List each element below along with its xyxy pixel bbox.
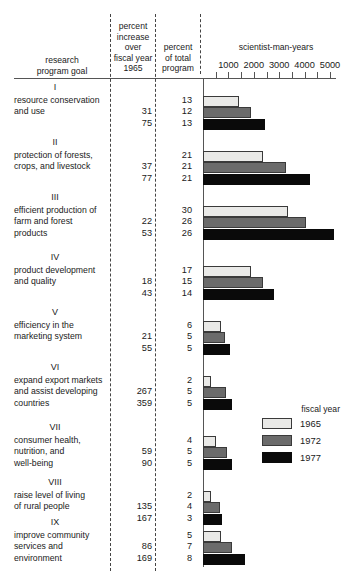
percent-of-total-value: 14 xyxy=(158,288,192,299)
percent-of-total-cell: 171514 xyxy=(158,265,192,299)
header-increase-line3: over xyxy=(112,42,154,53)
legend-items: 196519721977 xyxy=(262,418,348,463)
row-label-line: improve community xyxy=(14,530,110,541)
row-label-line: protection of forests, xyxy=(14,150,110,161)
percent-of-total-value: 5 xyxy=(158,530,192,541)
row-label: improve communityservices andenvironment xyxy=(14,530,110,564)
row-label-line: efficient production of xyxy=(14,205,110,216)
row-label: protection of forests,crops, and livesto… xyxy=(14,150,110,173)
percent-increase-cell: 267359 xyxy=(112,375,152,409)
bar-1977 xyxy=(203,344,230,355)
percent-increase-value: 86 xyxy=(112,541,152,552)
percent-increase-value: 167 xyxy=(112,513,152,524)
percent-increase-value xyxy=(112,320,152,331)
percent-increase-value: 77 xyxy=(112,173,152,184)
header-increase-line1: percent xyxy=(112,21,154,32)
row-label-line: consumer health, xyxy=(14,435,110,446)
percent-increase-value: 37 xyxy=(112,161,152,172)
bar-1972 xyxy=(203,447,227,458)
percent-of-total-value: 21 xyxy=(158,150,192,161)
percent-increase-value xyxy=(112,375,152,386)
row-numeral: V xyxy=(0,307,110,317)
row-numeral: IX xyxy=(0,517,110,527)
bar-1977 xyxy=(203,514,222,525)
percent-increase-cell: 5990 xyxy=(112,435,152,469)
header-goal-line2: program goal xyxy=(14,66,110,77)
percent-increase-value: 18 xyxy=(112,276,152,287)
row-numeral: II xyxy=(0,137,110,147)
legend-item: 1972 xyxy=(262,435,348,446)
bar-chart-figure: research program goal percent increase o… xyxy=(0,0,350,575)
percent-increase-value xyxy=(112,265,152,276)
header-total-line3: program xyxy=(157,63,199,74)
percent-increase-value: 21 xyxy=(112,331,152,342)
row-numeral: VIII xyxy=(0,477,110,487)
bar-1965 xyxy=(203,376,211,387)
percent-of-total-value: 21 xyxy=(158,173,192,184)
percent-increase-cell: 2253 xyxy=(112,205,152,239)
header-increase-line4: fiscal year xyxy=(112,53,154,64)
bar-1972 xyxy=(203,502,220,513)
percent-of-total-value: 26 xyxy=(158,216,192,227)
row-label-line: environment xyxy=(14,553,110,564)
row-numeral: III xyxy=(0,192,110,202)
percent-of-total-value: 5 xyxy=(158,458,192,469)
percent-of-total-value: 26 xyxy=(158,228,192,239)
bar-1965 xyxy=(203,436,216,447)
legend-item: 1977 xyxy=(262,452,348,463)
row-label-line: nutrition, and xyxy=(14,446,110,457)
bar-1965 xyxy=(203,151,263,162)
percent-increase-value xyxy=(112,490,152,501)
row-numeral: I xyxy=(0,82,110,92)
row-label-line: and quality xyxy=(14,276,110,287)
percent-increase-value: 135 xyxy=(112,501,152,512)
bar-1965 xyxy=(203,491,211,502)
percent-of-total-cell: 655 xyxy=(158,320,192,354)
percent-of-total-value: 13 xyxy=(158,118,192,129)
header-research-program-goal: research program goal xyxy=(14,55,110,76)
header-percent-increase: percent increase over fiscal year 1965 xyxy=(112,21,154,74)
bar-1972 xyxy=(203,387,226,398)
legend-swatch xyxy=(262,452,292,463)
percent-of-total-value: 17 xyxy=(158,265,192,276)
bar-1977 xyxy=(203,174,310,185)
row-label-line: farm and forest xyxy=(14,216,110,227)
row-label: expand export marketsand assist developi… xyxy=(14,375,110,409)
row-label: product developmentand quality xyxy=(14,265,110,288)
bar-1972 xyxy=(203,542,232,553)
legend-swatch xyxy=(262,435,292,446)
percent-increase-value: 59 xyxy=(112,446,152,457)
percent-of-total-cell: 302626 xyxy=(158,205,192,239)
percent-of-total-cell: 455 xyxy=(158,435,192,469)
percent-of-total-value: 30 xyxy=(158,205,192,216)
column-divider-3 xyxy=(200,14,201,74)
bar-1965 xyxy=(203,206,288,217)
legend-swatch xyxy=(262,418,292,429)
row-label-line: resource conservation xyxy=(14,95,110,106)
percent-of-total-value: 7 xyxy=(158,541,192,552)
percent-increase-value xyxy=(112,150,152,161)
bar-1977 xyxy=(203,554,245,565)
percent-increase-cell: 86169 xyxy=(112,530,152,564)
bar-1965 xyxy=(203,266,251,277)
row-label-line: of rural people xyxy=(14,501,110,512)
legend: fiscal year 196519721977 xyxy=(262,404,348,469)
bar-1977 xyxy=(203,399,232,410)
row-numeral: VI xyxy=(0,362,110,372)
bar-1977 xyxy=(203,289,274,300)
percent-of-total-value: 5 xyxy=(158,446,192,457)
row-label-line: efficiency in the xyxy=(14,320,110,331)
header-percent-of-total: percent of total program xyxy=(157,42,199,74)
percent-increase-value: 90 xyxy=(112,458,152,469)
row-label-line: countries xyxy=(14,398,110,409)
row-label-line: marketing system xyxy=(14,331,110,342)
legend-item: 1965 xyxy=(262,418,348,429)
header-rule xyxy=(14,78,336,79)
row-numeral: VII xyxy=(0,422,110,432)
row-label-line: product development xyxy=(14,265,110,276)
row-label: raise level of livingof rural people xyxy=(14,490,110,513)
percent-of-total-value: 5 xyxy=(158,343,192,354)
column-divider-2 xyxy=(155,14,156,571)
bar-1965 xyxy=(203,531,221,542)
row-label-line: crops, and livestock xyxy=(14,161,110,172)
